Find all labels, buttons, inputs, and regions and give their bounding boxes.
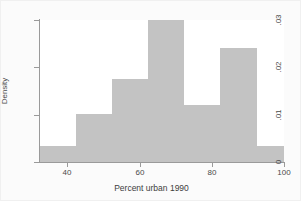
histogram-bars: [40, 20, 284, 162]
x-tick-mark: [284, 163, 285, 167]
x-tick-mark: [140, 163, 141, 167]
histogram-figure: 0.01.02.03 406080100 Density Percent urb…: [0, 0, 301, 201]
y-axis-title: Density: [0, 78, 9, 105]
x-tick-mark: [67, 163, 68, 167]
y-tick-label: .01: [274, 109, 283, 120]
plot-area: [40, 20, 284, 162]
histogram-bar: [112, 79, 148, 162]
x-tick-mark: [212, 163, 213, 167]
histogram-bar: [220, 48, 256, 162]
y-tick-mark: [34, 115, 39, 116]
y-tick-label: 0: [274, 160, 283, 164]
y-tick-label: .03: [274, 14, 283, 25]
x-tick-label: 100: [277, 168, 290, 177]
x-axis-line: [39, 162, 285, 163]
y-tick-mark: [34, 20, 39, 21]
y-tick-label: .02: [274, 61, 283, 72]
y-tick-mark: [34, 162, 39, 163]
histogram-bar: [40, 146, 76, 162]
histogram-bar: [148, 20, 184, 162]
x-tick-label: 40: [63, 168, 72, 177]
x-axis-title: Percent urban 1990: [1, 183, 301, 193]
x-tick-label: 80: [208, 168, 217, 177]
histogram-bar: [76, 114, 112, 162]
histogram-bar: [184, 105, 220, 162]
x-tick-label: 60: [136, 168, 145, 177]
y-tick-mark: [34, 67, 39, 68]
y-axis-line: [39, 19, 40, 163]
